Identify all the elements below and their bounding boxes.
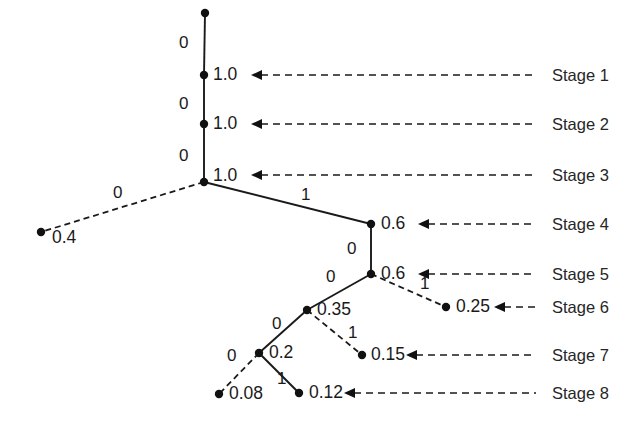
stage-arrow-stage-8: [344, 388, 536, 398]
edge-branch-label: 1: [348, 324, 357, 341]
edge-branch-label: 0: [272, 315, 281, 332]
edge-branch-label: 1: [277, 370, 286, 387]
node-value-label: 0.4: [52, 229, 76, 247]
edge-branch-label: 0: [347, 240, 356, 257]
node-value-label: 0.08: [229, 385, 263, 403]
stage-arrow-stage-5: [418, 269, 536, 279]
stage-label-stage-2: Stage 2: [552, 116, 609, 133]
edge-branch-label: 1: [420, 275, 429, 292]
stage-arrow-stage-1: [251, 70, 536, 80]
edge-branch-label: 0: [326, 268, 335, 285]
stage-arrow-head: [344, 388, 355, 398]
edge-e-root-s1: [204, 13, 205, 75]
stage-label-stage-3: Stage 3: [552, 167, 609, 184]
edge-e-s3-leaf04: [41, 182, 204, 232]
node-value-label: 0.12: [309, 384, 343, 402]
stage-arrow-head: [418, 219, 429, 229]
edge-branch-label: 0: [113, 184, 122, 201]
stage-arrow-head: [251, 119, 262, 129]
stage-arrow-stage-3: [251, 170, 536, 180]
node-n-02: [255, 349, 263, 357]
diagram-canvas: 1.01.01.00.40.60.60.250.350.150.20.080.1…: [0, 0, 631, 426]
node-n-leaf-025: [442, 303, 450, 311]
node-n-035: [303, 306, 311, 314]
node-n-s1: [200, 71, 208, 79]
stage-label-stage-1: Stage 1: [552, 67, 609, 84]
edge-branch-label: 0: [179, 147, 188, 164]
stage-arrow-head: [494, 302, 505, 312]
stage-label-stage-5: Stage 5: [552, 266, 609, 283]
edge-branch-label: 0: [227, 347, 236, 364]
edge-branch-label: 0: [179, 95, 188, 112]
edge-branch-label: 1: [301, 186, 310, 203]
stage-arrow-head: [251, 70, 262, 80]
node-value-label: 1.0: [213, 66, 237, 84]
node-value-label: 0.6: [381, 215, 405, 233]
node-n-s5: [367, 270, 375, 278]
edge-e-s3-s4: [204, 182, 371, 224]
tree-graphics: [0, 0, 631, 426]
node-n-leaf-008: [215, 390, 223, 398]
stage-arrow-head: [251, 170, 262, 180]
node-n-leaf-015: [358, 351, 366, 359]
stage-arrow-stage-6: [494, 302, 536, 312]
node-n-s3: [200, 178, 208, 186]
node-n-root: [201, 9, 209, 17]
node-value-label: 0.6: [381, 265, 405, 283]
stage-arrow-stage-4: [418, 219, 536, 229]
node-value-label: 0.35: [317, 301, 351, 319]
stage-arrow-stage-2: [251, 119, 536, 129]
node-n-leaf-04: [37, 228, 45, 236]
node-value-label: 0.2: [269, 344, 293, 362]
stage-label-stage-7: Stage 7: [552, 347, 609, 364]
node-value-label: 0.15: [371, 346, 405, 364]
node-n-s2: [200, 120, 208, 128]
stage-label-stage-4: Stage 4: [552, 216, 609, 233]
stage-label-stage-8: Stage 8: [552, 385, 609, 402]
node-n-leaf-012: [295, 389, 303, 397]
node-value-label: 1.0: [213, 115, 237, 133]
stage-arrow-head: [406, 350, 417, 360]
node-value-label: 0.25: [456, 298, 490, 316]
node-n-s4: [367, 220, 375, 228]
node-value-label: 1.0: [213, 167, 237, 185]
stage-label-stage-6: Stage 6: [552, 299, 609, 316]
edge-branch-label: 0: [179, 34, 188, 51]
stage-arrow-stage-7: [406, 350, 536, 360]
